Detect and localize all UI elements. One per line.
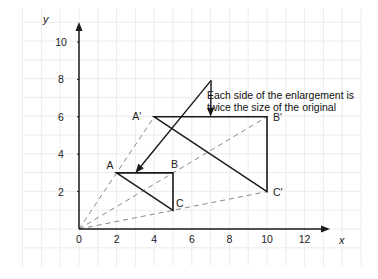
y-tick-label: 4 xyxy=(58,148,64,160)
y-tick-label: 8 xyxy=(58,73,64,85)
x-tick-label: 2 xyxy=(114,233,120,245)
grid xyxy=(22,8,362,266)
x-axis-arrowhead xyxy=(321,226,330,233)
enlargement-diagram: x y 024681012 246810 ABCA′B′C′ Each side… xyxy=(0,0,378,279)
y-tick-label: 6 xyxy=(58,111,64,123)
x-tick-label: 4 xyxy=(151,233,157,245)
y-axis-arrowhead xyxy=(76,22,83,31)
annotation-line-2: twice the size of the original xyxy=(207,101,336,113)
x-tick-label: 0 xyxy=(76,233,82,245)
vertex-label-c-prime: C′ xyxy=(273,186,283,198)
y-tick-label: 10 xyxy=(55,36,67,48)
x-tick-label: 6 xyxy=(189,233,195,245)
vertex-label-c: C xyxy=(176,197,184,209)
vertex-label-b: B xyxy=(171,158,178,170)
axes: x y xyxy=(42,13,345,246)
pointer-line xyxy=(141,80,211,166)
y-tick-label: 2 xyxy=(58,186,64,198)
vertex-labels: ABCA′B′C′ xyxy=(107,110,283,210)
y-axis-label: y xyxy=(42,13,50,25)
annotation-line-1: Each side of the enlargement is xyxy=(207,89,354,101)
annotation: Each side of the enlargement is twice th… xyxy=(207,89,354,113)
x-tick-labels: 024681012 xyxy=(76,233,311,245)
x-tick-label: 10 xyxy=(261,233,273,245)
vertex-label-a-prime: A′ xyxy=(132,110,141,122)
x-tick-label: 12 xyxy=(299,233,311,245)
vertex-label-a: A xyxy=(107,159,114,171)
x-tick-label: 8 xyxy=(226,233,232,245)
x-axis-label: x xyxy=(338,234,345,246)
